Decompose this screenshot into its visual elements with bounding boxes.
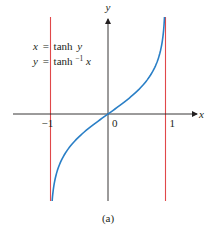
annotation-superscript: −1 xyxy=(75,54,83,63)
annotation-eq: = xyxy=(43,40,49,52)
annotation-x-equals-tanh-y: x = tanh y xyxy=(32,40,82,52)
annotation-lhs: y xyxy=(32,55,38,67)
annotation-func: tanh xyxy=(54,55,73,67)
annotation-func: tanh xyxy=(54,40,73,52)
x-axis-label: x xyxy=(198,108,204,120)
annotation-y-equals-atanh-x: y = tanh −1 x xyxy=(32,51,91,67)
y-axis-label: y xyxy=(105,1,111,13)
annotation-eq: = xyxy=(43,55,49,67)
figure-caption: (a) xyxy=(102,212,115,225)
annotation-lhs: x xyxy=(32,40,38,52)
annotation-arg: y xyxy=(76,40,82,52)
chart: x y −1 0 1 x = tanh y y = tanh −1 x (a) xyxy=(0,0,213,234)
annotation-arg: x xyxy=(85,55,91,67)
x-tick-label: 1 xyxy=(170,117,176,129)
x-tick-label: −1 xyxy=(42,117,54,129)
x-tick-label: 0 xyxy=(112,117,118,129)
